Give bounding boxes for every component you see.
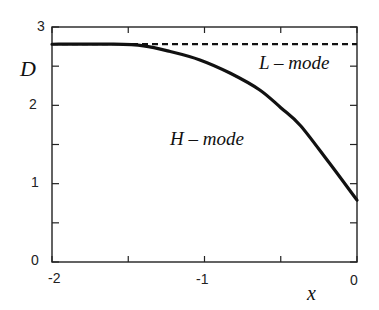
x-axis-label: x — [307, 282, 316, 305]
h-mode-annotation: H – mode — [170, 128, 244, 150]
y-tick-label-0: 0 — [31, 252, 39, 268]
x-tick-label-0: 0 — [350, 272, 358, 288]
l-mode-annotation: L – mode — [259, 52, 329, 74]
x-tick-label-minus-1: -1 — [196, 271, 208, 287]
line-chart — [0, 0, 379, 310]
y-tick-label-3: 3 — [37, 18, 45, 34]
y-tick-label-1: 1 — [31, 174, 39, 190]
y-axis-label: D — [20, 56, 36, 82]
y-tick-label-2: 2 — [29, 96, 37, 112]
x-tick-label-minus-2: -2 — [48, 270, 60, 286]
